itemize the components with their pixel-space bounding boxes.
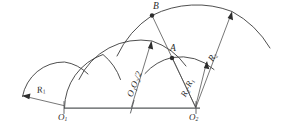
- arrowhead-r2: [228, 12, 233, 21]
- label-point-o2-sub: 2: [196, 116, 199, 122]
- label-point-b-text: B: [153, 1, 159, 11]
- arc-large-about-o1: [65, 55, 121, 109]
- arrowhead-half-o1o2: [148, 41, 153, 50]
- label-point-o1-sub: 1: [65, 116, 68, 122]
- arc-radius-r1-about-o1: [23, 62, 89, 97]
- label-point-a: A: [170, 44, 176, 54]
- leader-r2-minus-r1: [196, 63, 207, 108]
- tick-midpoint: [131, 101, 135, 114]
- point-a-marker: [170, 56, 174, 60]
- label-point-o1: O1: [58, 113, 67, 123]
- label-point-a-text: A: [170, 43, 176, 53]
- label-dimension-r1: R1: [36, 85, 46, 96]
- arc-small-about-o2: [145, 57, 214, 74]
- arc-radius-r2-about-o2: [117, 5, 270, 56]
- construction-figure: [0, 0, 283, 138]
- label-point-o2: O2: [189, 113, 198, 123]
- diagram-canvas: B A O1 O2 R1 O₁O₂/2 R₂-R₁ R2: [0, 0, 283, 138]
- label-point-b: B: [153, 2, 159, 12]
- point-b-marker: [150, 13, 154, 17]
